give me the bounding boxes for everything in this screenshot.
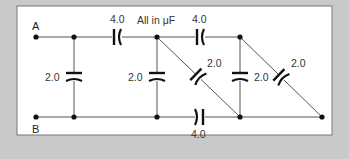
capacitor-diagonal-2-value: 2.0 <box>291 58 306 69</box>
terminal-b-node <box>33 114 38 119</box>
units-note: All in μF <box>137 15 175 26</box>
capacitor-bottom-value: 4.0 <box>191 129 206 140</box>
terminal-b-label: B <box>32 124 39 135</box>
capacitor-diagonal-1-value: 2.0 <box>207 58 222 69</box>
capacitor-shunt-1-value: 2.0 <box>45 72 60 83</box>
capacitor-shunt-2-value: 2.0 <box>128 72 143 83</box>
capacitor-top-1-value: 4.0 <box>110 14 125 25</box>
circuit-diagram-figure: A B 4.0 All in μF 4.0 4.0 2.0 2.0 2.0 2.… <box>0 0 349 159</box>
capacitor-top-2-value: 4.0 <box>192 14 207 25</box>
capacitor-shunt-3-value: 2.0 <box>254 72 269 83</box>
terminal-a-node <box>33 34 38 39</box>
terminal-a-label: A <box>32 21 39 32</box>
